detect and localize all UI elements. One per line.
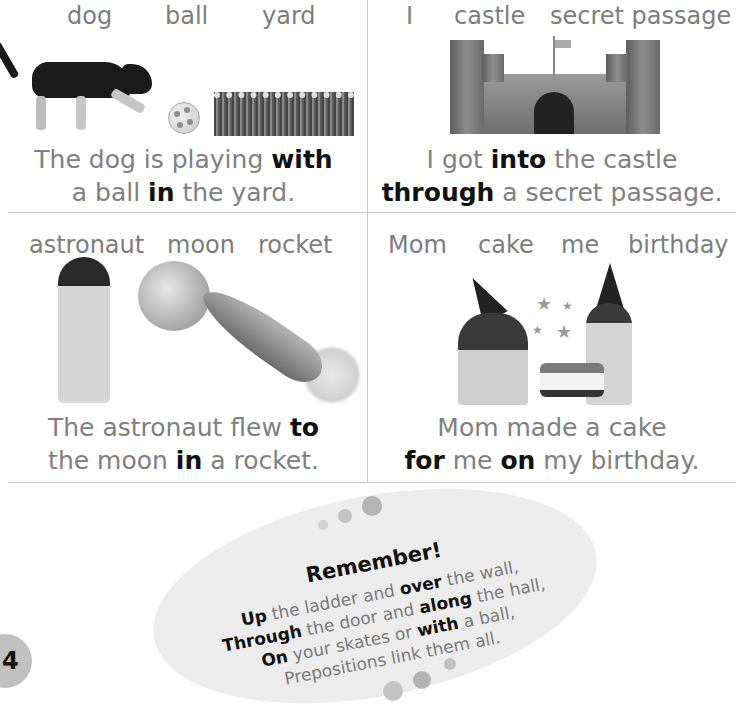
sentence-line-2: the moon in a rocket. <box>0 444 367 477</box>
panel-astronaut: astronaut moon rocket The astronaut flew… <box>0 213 367 482</box>
page-number-badge: 4 <box>0 634 32 688</box>
vocab-word: dog <box>67 2 112 30</box>
sentence-line-1: The dog is playing with <box>0 143 367 176</box>
panel-dog: dog ball yard The dog is playing with a … <box>0 0 367 212</box>
vocab-word: cake <box>478 231 534 259</box>
vocab-word: astronaut <box>29 231 144 259</box>
ball-image <box>168 102 200 134</box>
sentence-line-1: Mom made a cake <box>368 411 736 444</box>
dog-image <box>2 40 154 132</box>
rocket-image <box>192 285 362 405</box>
grass-image <box>214 92 354 136</box>
page-number: 4 <box>2 647 19 675</box>
panel-birthday: Mom cake me birthday ★ ★ ★ ★ Mom made a … <box>368 213 736 482</box>
sentence-line-1: I got into the castle <box>368 143 736 176</box>
vocab-word: me <box>561 231 599 259</box>
vocab-word: I <box>406 2 413 30</box>
example-sentence: I got into the castle through a secret p… <box>368 143 736 209</box>
vocab-word: birthday <box>628 231 729 259</box>
example-sentence: Mom made a cake for me on my birthday. <box>368 411 736 477</box>
sentence-line-2: through a secret passage. <box>368 176 736 209</box>
panel-castle: I castle secret passage I got into the c… <box>368 0 736 212</box>
vocab-word: castle <box>454 2 525 30</box>
vocab-word: Mom <box>388 231 447 259</box>
vocab-word: rocket <box>258 231 332 259</box>
vocab-word: moon <box>167 231 235 259</box>
mom-and-girl-cake-image: ★ ★ ★ ★ <box>456 263 646 405</box>
sentence-line-2: a ball in the yard. <box>0 176 367 209</box>
vocab-word: yard <box>262 2 316 30</box>
example-sentence: The dog is playing with a ball in the ya… <box>0 143 367 209</box>
example-sentence: The astronaut flew to the moon in a rock… <box>0 411 367 477</box>
astronaut-image <box>58 257 110 403</box>
vocab-word: secret passage <box>550 2 731 30</box>
sentence-line-1: The astronaut flew to <box>0 411 367 444</box>
remember-box: Remember! Up the ladder and over the wal… <box>175 465 584 708</box>
sentence-line-2: for me on my birthday. <box>368 444 736 477</box>
vocab-word: ball <box>165 2 208 30</box>
castle-image <box>450 36 660 134</box>
horizontal-divider-bottom <box>8 482 736 483</box>
